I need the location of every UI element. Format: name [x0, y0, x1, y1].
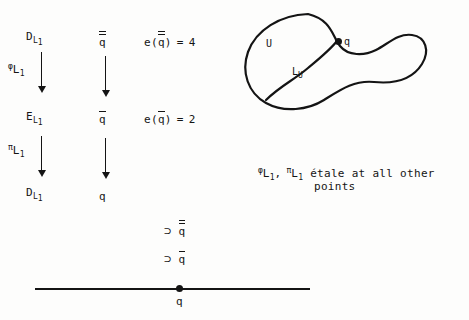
top-eq-arg: q	[158, 32, 165, 49]
upper-map-arrow	[36, 52, 47, 94]
containment-symbol-2: ⊃	[164, 252, 172, 266]
lower-map-arrow	[36, 136, 47, 178]
upper-map-sub: L	[13, 63, 20, 76]
middle-ramification-equation: e(q)=2	[144, 112, 196, 126]
note-comma: ,	[275, 167, 282, 180]
containment-symbol-1: ⊃	[164, 224, 172, 238]
middle-column-middle-prime: q	[99, 112, 106, 126]
top-eq-open: (	[151, 36, 158, 49]
mid-eq-fn: e	[144, 113, 151, 126]
left-column-bottom-object: DL1	[26, 186, 43, 203]
middle-column-bottom-prime: q	[99, 190, 106, 203]
middle-column-top-prime: q	[99, 32, 106, 49]
lower-map-label: πL1	[8, 143, 25, 159]
left-column-top-object: DL1	[26, 30, 43, 47]
blob-region-label: U	[266, 38, 272, 49]
containment-row-1: ⊃q	[164, 221, 185, 238]
note-map2-symbol: π	[282, 166, 292, 175]
figure-page: DL1 φL1 EL1 πL1 DL1 q q q e(q)=4	[0, 0, 469, 320]
blob-svg	[236, 8, 441, 116]
number-line-point-label: q	[176, 295, 183, 308]
left-middle-object-sub-index: 1	[38, 118, 43, 127]
containment-elem-2: q	[179, 252, 186, 266]
top-eq-fn: e	[144, 36, 151, 49]
number-line-point	[176, 285, 183, 292]
top-eq-close: )	[165, 36, 172, 49]
lower-map-sub: L	[13, 144, 20, 157]
mid-eq-open: (	[151, 113, 158, 126]
middle-lower-arrow	[100, 138, 111, 180]
mid-eq-close: )	[165, 113, 172, 126]
upper-map-sub-index: 1	[20, 69, 25, 78]
blob-point-dot	[335, 38, 342, 45]
note-map1-sub: L	[263, 167, 270, 180]
containment-elem-1: q	[179, 221, 186, 238]
blob-sheaf-sub: U	[298, 71, 303, 80]
blob-sheaf-label: LU	[292, 66, 303, 80]
note-line1: étale at all other	[303, 167, 435, 180]
blob-figure: q U LU	[236, 8, 441, 116]
lower-map-sub-index: 1	[20, 150, 25, 159]
mid-eq-value: 2	[189, 113, 196, 126]
top-eq-value: 4	[189, 36, 196, 49]
left-column-middle-object: EL1	[26, 110, 43, 127]
upper-map-label: φL1	[8, 62, 25, 78]
mid-eq-arg: q	[158, 112, 165, 126]
mid-eq-equals: =	[172, 113, 189, 126]
etale-note-line2: points	[314, 180, 356, 193]
left-middle-object-base: E	[26, 110, 33, 123]
left-bottom-object-sub-index: 1	[38, 194, 43, 203]
middle-prime-letter: q	[99, 112, 106, 126]
blob-point-label: q	[344, 36, 350, 47]
left-bottom-object-base: D	[26, 186, 33, 199]
number-line	[35, 288, 310, 290]
left-top-object-sub-index: 1	[38, 38, 43, 47]
left-top-object-base: D	[26, 30, 33, 43]
top-ramification-equation: e(q)=4	[144, 32, 196, 49]
middle-upper-arrow	[100, 56, 111, 98]
containment-row-2: ⊃q	[164, 252, 185, 266]
top-eq-equals: =	[172, 36, 189, 49]
top-prime-letter: q	[99, 32, 106, 49]
